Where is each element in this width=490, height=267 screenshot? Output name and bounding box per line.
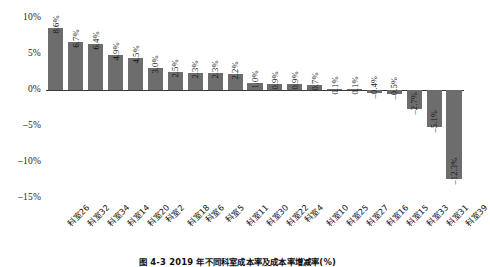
bar-value-label: 0.1%	[330, 77, 339, 95]
bar-value-label: –2.7%	[410, 92, 419, 115]
y-axis-tick-label: –10%	[18, 157, 41, 167]
bar-slot: 6.7%	[66, 18, 86, 198]
bar-value-label: –5.1%	[430, 110, 439, 133]
bar-slot: 6.4%	[86, 18, 106, 198]
plot-area: 10%5%0%–5%–10%–15% 8.6%6.7%6.4%4.9%4.5%3…	[46, 18, 464, 198]
bar-slot: 2.3%	[185, 18, 205, 198]
bar-value-label: 6.7%	[72, 29, 81, 47]
figure-caption: 图 4-3 2019 年不同科室成本率及成本率增减率(%)	[0, 255, 475, 267]
bar-value-label: –0.5%	[390, 76, 399, 99]
y-axis-tick-label: –15%	[18, 193, 41, 203]
bar-value-label: 8.6%	[52, 15, 61, 33]
y-axis-tick-label: 0%	[28, 85, 41, 95]
bar-value-label: 0.9%	[290, 71, 299, 89]
bar-value-label: 2.5%	[171, 59, 180, 77]
x-axis-category-label: 科室5	[224, 203, 245, 224]
bar-slot: 2.2%	[225, 18, 245, 198]
bar-value-label: 4.9%	[111, 42, 120, 60]
bar-slot: –0.4%	[364, 18, 384, 198]
bar-slot: 2.5%	[165, 18, 185, 198]
bar-value-label: 4.5%	[131, 45, 140, 63]
bar[interactable]	[68, 42, 83, 90]
bar-value-label: 0.9%	[271, 71, 280, 89]
bar-value-label: 2.3%	[191, 61, 200, 79]
bar-slot: –12.3%	[444, 18, 464, 198]
bar-slot: 0.1%	[325, 18, 345, 198]
y-axis-tick-label: 10%	[23, 13, 41, 23]
bar-value-label: 0.7%	[310, 72, 319, 90]
bar-slot: –5.1%	[424, 18, 444, 198]
bar[interactable]	[48, 28, 63, 90]
bar-slot: 3.0%	[146, 18, 166, 198]
y-axis-tick-label: 5%	[28, 49, 41, 59]
bar-slot: 0.7%	[305, 18, 325, 198]
bar-value-label: –0.4%	[370, 76, 379, 99]
bar-slot: 2.3%	[205, 18, 225, 198]
bar-slot: 0.1%	[345, 18, 365, 198]
bar-value-label: 6.4%	[91, 31, 100, 49]
bar-value-label: –12.3%	[450, 157, 459, 184]
bar-slot: 4.5%	[126, 18, 146, 198]
bar-value-label: 2.2%	[231, 61, 240, 79]
bar-value-label: 0.1%	[350, 77, 359, 95]
bar-value-label: 3.0%	[151, 56, 160, 74]
bar-series: 8.6%6.7%6.4%4.9%4.5%3.0%2.5%2.3%2.3%2.2%…	[46, 18, 464, 198]
bar-value-label: 2.3%	[211, 61, 220, 79]
bar-slot: 0.9%	[265, 18, 285, 198]
bar-slot: 4.9%	[106, 18, 126, 198]
bar-slot: 8.6%	[46, 18, 66, 198]
bar-slot: –0.5%	[384, 18, 404, 198]
bar-slot: –2.7%	[404, 18, 424, 198]
bar-slot: 0.9%	[285, 18, 305, 198]
bar-value-label: 1.0%	[251, 70, 260, 88]
bar[interactable]	[88, 44, 103, 90]
bar-slot: 1.0%	[245, 18, 265, 198]
y-axis-tick-label: –5%	[23, 121, 41, 131]
